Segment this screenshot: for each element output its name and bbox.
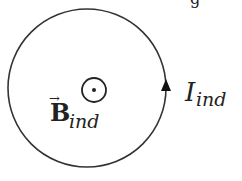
out-of-page-icon xyxy=(82,78,106,102)
current-subscript: ind xyxy=(196,88,226,110)
current-label: I ind xyxy=(184,77,226,110)
field-label: → B ind xyxy=(49,91,99,132)
current-loop xyxy=(8,9,166,167)
current-direction-arrow-icon xyxy=(161,79,171,91)
caption-partial: g xyxy=(190,0,200,8)
induced-field-diagram: g → B ind I ind xyxy=(0,0,242,181)
current-symbol: I xyxy=(184,77,196,107)
field-subscript: ind xyxy=(69,110,99,132)
field-symbol: B xyxy=(50,98,70,127)
